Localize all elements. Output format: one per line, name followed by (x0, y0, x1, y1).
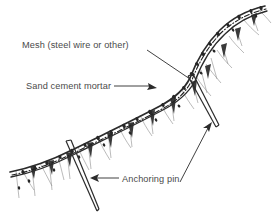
slope-protection-diagram: Mesh (steel wire or other) Sand cement m… (0, 0, 275, 217)
label-anchoring-pin: Anchoring pin (122, 174, 179, 184)
leader-mortar (114, 83, 157, 90)
leader-anchor-right (180, 122, 212, 182)
label-mesh: Mesh (steel wire or other) (22, 40, 129, 50)
mesh-line (12, 9, 266, 175)
mortar-band-lower-edge (11, 11, 267, 177)
label-sand-cement-mortar: Sand cement mortar (26, 81, 111, 91)
leader-anchor-left (90, 174, 119, 182)
leader-mesh (147, 50, 190, 79)
